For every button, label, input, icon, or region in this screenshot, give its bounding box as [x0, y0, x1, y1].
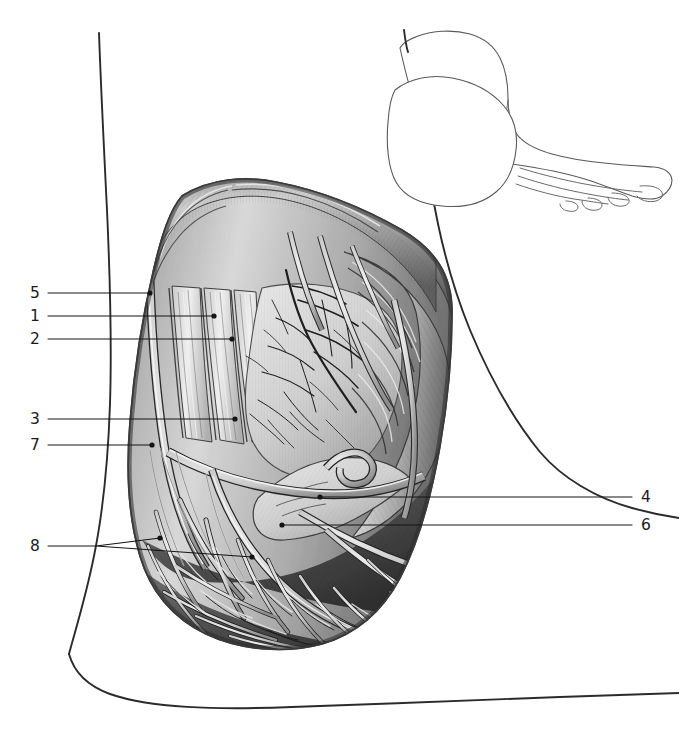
leader-dot-4 [317, 494, 322, 499]
plate-canvas: 512378 46 [0, 0, 679, 730]
leader-dot-5 [147, 290, 152, 295]
leader-dot-8-b [249, 554, 254, 559]
anatomical-plate: 512378 46 [0, 0, 679, 730]
label-8: 8 [30, 537, 40, 555]
label-3: 3 [30, 410, 40, 428]
label-5: 5 [30, 284, 40, 302]
label-4: 4 [641, 488, 651, 506]
leader-dot-1 [211, 313, 216, 318]
leader-dot-3 [232, 416, 237, 421]
leader-dot-6 [279, 522, 284, 527]
leader-dot-2 [229, 336, 234, 341]
label-7: 7 [30, 436, 40, 454]
label-2: 2 [30, 330, 40, 348]
leader-dot-8 [157, 535, 162, 540]
label-1: 1 [30, 307, 40, 325]
leader-dot-7 [149, 442, 154, 447]
label-6: 6 [641, 516, 651, 534]
